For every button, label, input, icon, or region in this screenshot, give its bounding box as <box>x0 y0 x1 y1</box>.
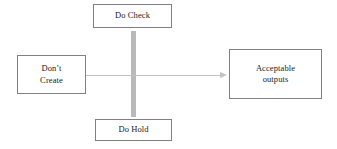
node-acceptable-outputs[interactable]: Acceptable outputs <box>229 49 322 99</box>
diagram-canvas: Do Check Don’t Create Acceptable outputs… <box>0 0 337 149</box>
flow-arrow-connector <box>86 74 227 77</box>
node-dont-create-label-line-1: Don’t <box>40 63 63 74</box>
node-do-hold[interactable]: Do Hold <box>95 119 172 141</box>
node-dont-create-label: Don’t Create <box>40 63 63 86</box>
node-do-check[interactable]: Do Check <box>93 4 172 28</box>
node-do-hold-label: Do Hold <box>118 124 148 135</box>
node-do-check-label: Do Check <box>115 10 150 21</box>
node-acceptable-outputs-label-line-1: Acceptable <box>256 63 295 74</box>
node-dont-create-label-line-2: Create <box>40 75 63 86</box>
node-acceptable-outputs-label-line-2: outputs <box>256 74 295 85</box>
node-dont-create[interactable]: Don’t Create <box>17 55 86 94</box>
flow-arrow-shaft <box>86 75 220 77</box>
node-acceptable-outputs-label: Acceptable outputs <box>256 63 295 86</box>
flow-arrow-head-icon <box>220 72 227 78</box>
